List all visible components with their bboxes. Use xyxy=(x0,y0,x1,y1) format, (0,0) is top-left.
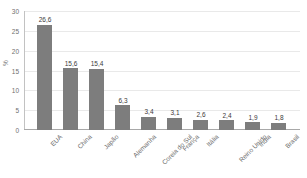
bar-group[interactable]: 1,8 xyxy=(266,11,292,130)
plot-area: 30 25 20 15 10 5 0 26,6 15,6 15,4 6,3 3,… xyxy=(24,11,300,130)
bar-group[interactable]: 6,3 xyxy=(110,11,136,130)
bar[interactable] xyxy=(141,117,156,130)
y-axis-line xyxy=(24,11,25,130)
bar-group[interactable]: 2,4 xyxy=(214,11,240,130)
bar-group[interactable]: 2,6 xyxy=(188,11,214,130)
x-tick-label: Japão xyxy=(102,133,119,150)
y-axis-label: % xyxy=(2,60,9,66)
bar-value-label: 1,8 xyxy=(266,114,292,121)
bar-value-label: 3,1 xyxy=(162,109,188,116)
x-tick-label: Brasil xyxy=(284,133,300,149)
bar-group[interactable]: 15,6 xyxy=(58,11,84,130)
bar-value-label: 26,6 xyxy=(32,16,58,23)
x-tick-label: EUA xyxy=(49,133,63,147)
y-tick-label: 25 xyxy=(0,28,19,35)
y-tick-label: 10 xyxy=(0,87,19,94)
bar-group[interactable]: 26,6 xyxy=(32,11,58,130)
bar-group[interactable]: 1,9 xyxy=(240,11,266,130)
bar-value-label: 2,4 xyxy=(214,112,240,119)
bar-value-label: 2,6 xyxy=(188,111,214,118)
x-tick-label: Alemanha xyxy=(132,133,158,159)
bar-group[interactable]: 15,4 xyxy=(84,11,110,130)
chart-title xyxy=(0,0,307,2)
bar-group[interactable]: 3,1 xyxy=(162,11,188,130)
bar-value-label: 15,4 xyxy=(84,60,110,67)
bar-group[interactable]: 3,4 xyxy=(136,11,162,130)
bar[interactable] xyxy=(115,105,130,130)
bar[interactable] xyxy=(167,118,182,130)
bar-value-label: 6,3 xyxy=(110,97,136,104)
bar[interactable] xyxy=(89,69,104,130)
x-tick-label: Itália xyxy=(205,133,220,148)
bar[interactable] xyxy=(245,122,260,130)
bar-chart: % 30 25 20 15 10 5 0 26,6 15,6 15,4 xyxy=(0,0,307,178)
bar[interactable] xyxy=(37,25,52,131)
bar-value-label: 3,4 xyxy=(136,108,162,115)
y-tick-label: 20 xyxy=(0,48,19,55)
bar[interactable] xyxy=(219,120,234,130)
x-tick-label: China xyxy=(76,133,93,150)
bar[interactable] xyxy=(193,120,208,130)
bar-value-label: 1,9 xyxy=(240,114,266,121)
bar[interactable] xyxy=(63,68,78,130)
y-tick-label: 5 xyxy=(0,107,19,114)
bar[interactable] xyxy=(271,123,286,130)
y-tick-label: 15 xyxy=(0,68,19,75)
y-tick-label: 30 xyxy=(0,8,19,15)
y-tick-label: 0 xyxy=(0,127,19,134)
bar-value-label: 15,6 xyxy=(58,60,84,67)
